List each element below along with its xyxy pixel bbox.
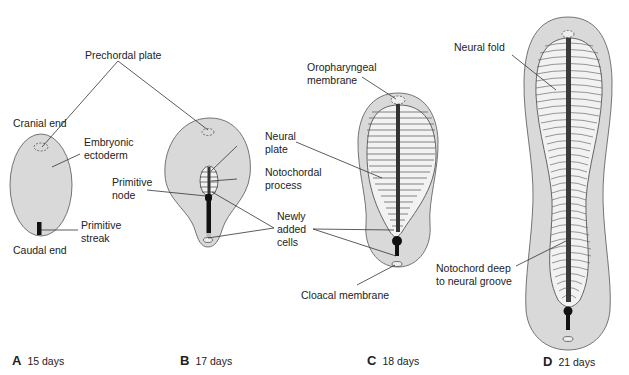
panel-age-a: 15 days <box>27 355 64 367</box>
panel-letter-b: B <box>180 353 189 368</box>
embryo-a-15-days <box>10 134 72 236</box>
label-primitive-streak: Primitive streak <box>81 219 121 245</box>
embryo-c-18-days <box>358 93 438 267</box>
panel-age-b: 17 days <box>195 355 232 367</box>
embryo-b-17-days <box>165 118 251 247</box>
embryo-d-21-days <box>524 17 612 350</box>
panel-letter-a: A <box>12 353 21 368</box>
caption-a: A15 days <box>12 353 64 368</box>
label-prechordal-plate: Prechordal plate <box>85 49 161 62</box>
panel-letter-c: C <box>367 353 376 368</box>
label-embryonic-ectoderm: Embryonic ectoderm <box>84 136 134 162</box>
caption-d: D21 days <box>543 354 595 369</box>
panel-age-d: 21 days <box>558 356 595 368</box>
label-oropharyngeal-membrane: Oropharyngeal membrane <box>307 61 376 87</box>
label-newly-added-cells: Newly added cells <box>277 210 306 249</box>
label-neural-fold: Neural fold <box>454 41 505 54</box>
panel-letter-d: D <box>543 354 552 369</box>
panel-age-c: 18 days <box>382 355 419 367</box>
label-notochord-deep: Notochord deep to neural groove <box>436 262 512 288</box>
label-notochordal-process: Notochordal process <box>265 166 322 192</box>
label-neural-plate: Neural plate <box>265 130 296 156</box>
label-cranial-end: Cranial end <box>13 117 67 130</box>
caption-c: C18 days <box>367 353 419 368</box>
primitive-streak-a <box>37 222 42 235</box>
label-primitive-node: Primitive node <box>112 176 152 202</box>
label-caudal-end: Caudal end <box>13 244 67 257</box>
caption-b: B17 days <box>180 353 232 368</box>
label-cloacal-membrane: Cloacal membrane <box>301 289 389 302</box>
